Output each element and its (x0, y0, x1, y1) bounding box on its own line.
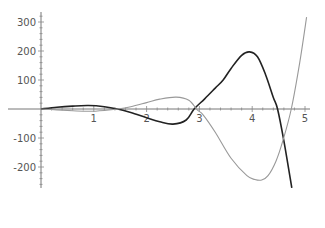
x-tick-label: 3 (196, 113, 202, 124)
x-tick-label: 4 (249, 113, 255, 124)
line-chart: 300200100-100-200 12345 (0, 0, 325, 228)
y-axis: 300200100-100-200 (13, 12, 44, 188)
y-tick-label: 300 (17, 17, 36, 28)
y-ticks: 300200100-100-200 (13, 16, 44, 184)
series-layer (41, 17, 307, 188)
x-tick-label: 1 (91, 113, 97, 124)
y-tick-label: 200 (17, 46, 36, 57)
y-tick-label: -100 (13, 133, 36, 144)
y-tick-label: 100 (17, 75, 36, 86)
y-tick-label: -200 (13, 162, 36, 173)
series-line-light-curve (41, 17, 307, 180)
x-tick-label: 5 (302, 113, 308, 124)
